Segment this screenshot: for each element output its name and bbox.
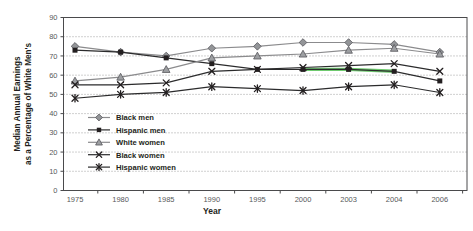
legend-label-black-men: Black men xyxy=(116,113,154,122)
x-tick-label-1990: 1990 xyxy=(203,195,220,204)
diamond-marker xyxy=(254,43,262,51)
legend-item-hispanic-women: Hispanic women xyxy=(88,163,176,172)
y-tick-label-20: 20 xyxy=(49,148,57,157)
x-tick-label-1985: 1985 xyxy=(158,195,175,204)
y-tick-labels: 0102030405060708090 xyxy=(49,13,57,195)
square-marker xyxy=(209,61,214,66)
diamond-marker xyxy=(208,44,216,52)
square-marker xyxy=(437,78,442,83)
y-tick-label-30: 30 xyxy=(49,128,57,137)
y-axis-title-line2: as a Percentage of White Men's xyxy=(24,43,33,166)
square-marker xyxy=(97,128,101,132)
x-tick-label-2000: 2000 xyxy=(295,195,312,204)
earnings-percentage-figure: 0102030405060708090197519801985199019952… xyxy=(0,0,473,231)
y-tick-label-10: 10 xyxy=(49,167,57,176)
legend-label-white-women: White women xyxy=(116,138,165,147)
legend-item-hispanic-men: Hispanic men xyxy=(88,126,166,135)
diamond-marker xyxy=(345,39,353,47)
square-marker xyxy=(164,55,169,60)
y-tick-label-90: 90 xyxy=(49,13,57,22)
legend-item-white-women: White women xyxy=(88,138,165,147)
square-marker xyxy=(392,69,397,74)
x-tick-label-2004: 2004 xyxy=(386,195,403,204)
y-tick-label-80: 80 xyxy=(49,32,57,41)
legend-item-black-men: Black men xyxy=(88,113,154,122)
y-axis-title-line1: Median Annual Earnings xyxy=(13,56,22,152)
x-axis-title: Year xyxy=(203,206,222,216)
y-tick-label-50: 50 xyxy=(49,90,57,99)
y-tick-label-60: 60 xyxy=(49,71,57,80)
diamond-marker xyxy=(299,39,307,47)
legend-label-hispanic-men: Hispanic men xyxy=(116,126,166,135)
x-tick-label-1995: 1995 xyxy=(249,195,266,204)
series-line-black-women xyxy=(75,64,440,85)
x-tick-label-1980: 1980 xyxy=(112,195,129,204)
x-tick-label-1975: 1975 xyxy=(67,195,84,204)
legend: Black menHispanic menWhite womenBlack wo… xyxy=(88,113,176,172)
series-black-women xyxy=(72,61,443,88)
x-tick-labels: 197519801985199019952000200320042006 xyxy=(67,195,448,204)
earnings-line-chart: 0102030405060708090197519801985199019952… xyxy=(0,0,473,231)
x-tick-label-2003: 2003 xyxy=(340,195,357,204)
y-tick-label-70: 70 xyxy=(49,52,57,61)
legend-label-black-women: Black women xyxy=(116,151,165,160)
x-tick-label-2006: 2006 xyxy=(431,195,448,204)
square-marker xyxy=(118,50,123,55)
y-tick-label-40: 40 xyxy=(49,109,57,118)
square-marker xyxy=(73,48,78,53)
diamond-marker xyxy=(96,114,103,121)
y-tick-label-0: 0 xyxy=(53,186,57,195)
legend-label-hispanic-women: Hispanic women xyxy=(116,163,176,172)
